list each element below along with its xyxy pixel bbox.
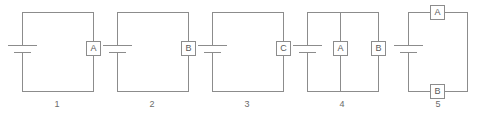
circuit-5-right-wire <box>467 12 468 92</box>
circuit-4-bottom-wire <box>307 91 378 92</box>
circuit-2-right-wire-lower <box>188 56 189 92</box>
circuit-4-right-wire-lower <box>378 56 379 92</box>
circuit-2-left-wire-upper <box>117 12 118 45</box>
circuit-4-middle-branch-lower <box>340 56 341 92</box>
circuit-2-top-wire <box>117 12 188 13</box>
circuit-4-left-wire-lower <box>307 53 308 92</box>
circuit-2-caption: 2 <box>132 99 172 109</box>
circuit-3-battery-short-plate <box>204 52 221 53</box>
circuit-4-meter-b[interactable]: B <box>371 41 386 56</box>
circuit-5-battery-short-plate <box>400 52 417 53</box>
circuit-4-battery-long-plate <box>293 45 322 46</box>
circuit-1-top-wire <box>22 12 93 13</box>
circuit-2-battery-short-plate <box>109 52 126 53</box>
circuit-1-left-wire-lower <box>22 53 23 92</box>
circuit-2-right-wire-upper <box>188 12 189 42</box>
circuit-4-middle-branch-upper <box>340 12 341 42</box>
circuit-3-right-wire-lower <box>283 56 284 92</box>
circuit-5-bottom-wire-right <box>445 91 467 92</box>
circuit-diagram-figure: A 1 B 2 C 3 A <box>0 0 480 120</box>
circuit-5: A B 5 <box>390 0 480 120</box>
circuit-5-meter-b[interactable]: B <box>430 84 445 99</box>
circuit-1-battery-long-plate <box>8 45 37 46</box>
circuit-3-top-wire <box>212 12 283 13</box>
circuit-1-right-wire-lower <box>93 56 94 92</box>
circuit-5-bottom-wire-left <box>408 91 430 92</box>
circuit-4-caption: 4 <box>322 99 362 109</box>
circuit-4-top-wire <box>307 12 378 13</box>
circuit-2-bottom-wire <box>117 91 188 92</box>
circuit-1-caption: 1 <box>37 99 77 109</box>
circuit-3-left-wire-lower <box>212 53 213 92</box>
circuit-5-top-wire-right <box>445 12 467 13</box>
circuit-3-battery-long-plate <box>198 45 227 46</box>
circuit-1-battery-short-plate <box>14 52 31 53</box>
circuit-2-left-wire-lower <box>117 53 118 92</box>
circuit-3-bottom-wire <box>212 91 283 92</box>
circuit-3-caption: 3 <box>227 99 267 109</box>
circuit-5-battery-long-plate <box>394 45 423 46</box>
circuit-5-meter-a[interactable]: A <box>430 5 445 20</box>
circuit-1-right-wire-upper <box>93 12 94 42</box>
circuit-2: B 2 <box>95 0 195 120</box>
circuit-2-battery-long-plate <box>103 45 132 46</box>
circuit-5-left-wire-lower <box>408 53 409 92</box>
circuit-5-caption: 5 <box>418 99 458 109</box>
circuit-1: A 1 <box>0 0 100 120</box>
circuit-1-left-wire-upper <box>22 12 23 45</box>
circuit-3-right-wire-upper <box>283 12 284 42</box>
circuit-3: C 3 <box>190 0 290 120</box>
circuit-5-top-wire-left <box>408 12 430 13</box>
circuit-4-right-wire-upper <box>378 12 379 42</box>
circuit-4-battery-short-plate <box>299 52 316 53</box>
circuit-4: A B 4 <box>285 0 390 120</box>
circuit-1-bottom-wire <box>22 91 93 92</box>
circuit-3-left-wire-upper <box>212 12 213 45</box>
circuit-5-left-wire-upper <box>408 12 409 45</box>
circuit-4-meter-a[interactable]: A <box>333 41 348 56</box>
circuit-4-left-wire-upper <box>307 12 308 45</box>
